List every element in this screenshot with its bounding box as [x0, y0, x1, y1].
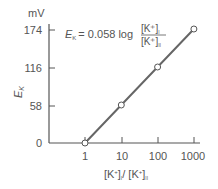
- x-tick-labels: 1 10 100 1000: [82, 150, 205, 162]
- svg-text:EK: EK: [12, 86, 25, 98]
- y-tick-label: 116: [24, 62, 42, 74]
- x-ticks: [85, 137, 194, 143]
- equation-annotation: EK= 0.058 log [K⁺]I [K⁺]II: [65, 23, 166, 48]
- y-tick-label: 0: [36, 137, 42, 149]
- x-tick-label: 1: [82, 150, 88, 162]
- series-line: [85, 29, 194, 143]
- chart-canvas: 174 116 58 0 1 10 100 1000 mV EK EK= 0.0…: [0, 0, 218, 189]
- x-tick-label: 10: [116, 150, 128, 162]
- y-unit-label: mV: [28, 7, 45, 19]
- y-tick-labels: 174 116 58 0: [24, 24, 42, 149]
- y-tick-label: 58: [30, 100, 42, 112]
- y-tick-label: 174: [24, 24, 42, 36]
- data-point-marker: [191, 26, 197, 32]
- equation-numerator: [K⁺]I: [141, 23, 160, 35]
- y-axis-label: EK: [12, 86, 25, 98]
- equation-denominator: [K⁺]II: [141, 36, 161, 48]
- x-axis-label: [K+]I/ [K+]II: [104, 168, 148, 181]
- data-point-marker: [118, 102, 124, 108]
- data-point-marker: [155, 64, 161, 70]
- x-tick-label: 1000: [181, 150, 205, 162]
- y-ticks: [49, 30, 55, 106]
- data-point-marker: [82, 140, 88, 146]
- svg-text:EK= 0.058 log: EK= 0.058 log: [65, 28, 133, 41]
- x-tick-label: 100: [149, 150, 167, 162]
